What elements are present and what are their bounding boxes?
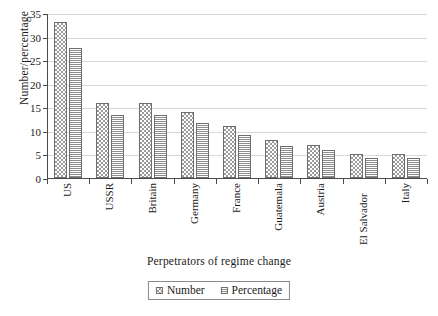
bar-group (258, 14, 300, 178)
bar-group (47, 14, 89, 178)
bar-number (181, 112, 194, 178)
x-label-text: El Salvador (358, 183, 370, 245)
x-axis-category-labels: USUSSRBritainGermanyFranceGuatemalaAustr… (47, 183, 427, 249)
legend-entry-number[interactable]: Number (156, 284, 205, 296)
bar-percentage (365, 158, 378, 178)
bar-group (131, 14, 173, 178)
x-tick-mark (427, 179, 428, 184)
y-tick-label: 0 (36, 173, 42, 185)
bar-percentage (69, 48, 82, 178)
x-axis-title: Perpetrators of regime change (0, 255, 438, 267)
legend-swatch-icon (221, 287, 228, 294)
bar-number (350, 154, 363, 178)
chart-legend: NumberPercentage (148, 281, 290, 300)
x-label-text: Austria (315, 183, 327, 215)
bar-number (139, 103, 152, 178)
bar-group (343, 14, 385, 178)
y-axis-title: Number/percentage (18, 0, 30, 138)
bar-group (300, 14, 342, 178)
y-tick-label: 5 (36, 149, 42, 161)
bar-number (96, 103, 109, 178)
bar-percentage (407, 158, 420, 178)
x-label-text: Guatemala (273, 183, 285, 231)
legend-label: Percentage (232, 284, 282, 296)
x-label-text: Italy (400, 183, 412, 203)
x-label-text: US (62, 183, 74, 197)
bar-number (392, 154, 405, 178)
bar-percentage (111, 115, 124, 178)
bar-percentage (238, 135, 251, 178)
x-label-text: USSR (104, 183, 116, 211)
y-tick-label: 30 (30, 32, 41, 44)
bar-percentage (322, 150, 335, 178)
y-axis-line (47, 14, 48, 179)
bar-group (174, 14, 216, 178)
legend-label: Number (167, 284, 205, 296)
bar-percentage (154, 115, 167, 178)
bar-chart-figure: Number/percentage 05101520253035 USUSSRB… (0, 0, 438, 316)
y-tick-label: 25 (30, 55, 41, 67)
plot-area: 05101520253035 (47, 14, 427, 179)
y-tick-label: 10 (30, 126, 41, 138)
x-label-text: Britain (147, 183, 159, 214)
bar-number (265, 140, 278, 178)
x-label-text: France (231, 183, 243, 213)
bar-group (216, 14, 258, 178)
x-label-text: Germany (189, 183, 201, 224)
bar-group (385, 14, 427, 178)
bar-number (54, 22, 67, 178)
legend-entry-percentage[interactable]: Percentage (221, 284, 282, 296)
bar-percentage (196, 123, 209, 178)
y-tick-label: 20 (30, 79, 41, 91)
x-axis-line (47, 178, 427, 179)
y-tick-label: 35 (30, 8, 41, 20)
bar-group (89, 14, 131, 178)
bar-number (223, 126, 236, 178)
bar-percentage (280, 146, 293, 178)
bar-number (307, 145, 320, 178)
y-tick-label: 15 (30, 102, 41, 114)
legend-swatch-icon (156, 287, 163, 294)
